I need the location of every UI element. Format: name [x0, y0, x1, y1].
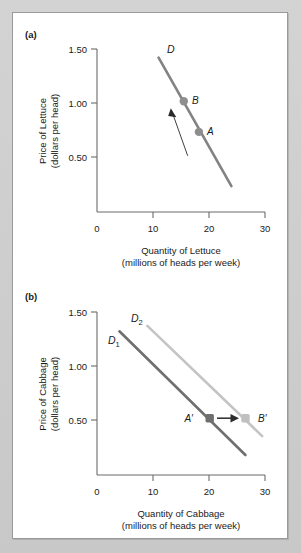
panel-a-ylabel-100: 1.00: [69, 98, 88, 109]
panel-b-y-axis-title-line2: (dollars per head): [49, 357, 60, 431]
data-point-B-prime: [241, 414, 249, 422]
shift-arrow-b: [217, 414, 239, 423]
point-label-A: A: [206, 126, 214, 137]
panel-b-xlabel-30: 30: [260, 486, 271, 497]
panel-b-plot: (b) 1.50 1.00 0.50 0 10: [13, 278, 289, 540]
data-point-A: [195, 128, 203, 136]
curve-label-D1-sub: 1: [116, 340, 120, 349]
panel-a-y-axis-title-line2: (dollars per head): [49, 94, 60, 168]
panel-b-x-axis-title-line2: (millions of heads per week): [122, 520, 240, 531]
panel-a-y-axis-title-line1: Price of Lettuce: [37, 98, 48, 164]
figure-card: (a) 1.50 1.00 0.50 0 10: [12, 12, 288, 539]
data-point-A-prime: [206, 414, 214, 422]
panel-a-ylabel-150: 1.50: [69, 44, 88, 55]
point-label-B-prime: B′: [258, 413, 268, 424]
panel-a-x-axis-title-line1: Quantity of Lettuce: [141, 245, 221, 256]
panel-b-ylabel-100: 1.00: [69, 361, 88, 372]
curve-label-D1: D1: [108, 334, 120, 349]
panel-a-xlabel-0: 0: [94, 223, 99, 234]
panel-b-y-axis-title-line1: Price of Cabbage: [37, 357, 48, 430]
panel-b-label: (b): [25, 291, 37, 302]
data-point-B: [180, 97, 188, 105]
movement-arrow-a: [168, 108, 188, 156]
panel-a: (a) 1.50 1.00 0.50 0 10: [13, 13, 289, 278]
panel-a-xlabel-20: 20: [204, 223, 215, 234]
panel-b-xlabel-0: 0: [94, 486, 99, 497]
panel-a-label: (a): [25, 29, 37, 40]
panel-b: (b) 1.50 1.00 0.50 0 10: [13, 278, 289, 540]
demand-curve-D1: [119, 331, 245, 455]
curve-label-D: D: [167, 43, 175, 55]
panel-b-ylabel-050: 0.50: [69, 415, 88, 426]
panel-a-xlabel-30: 30: [260, 223, 271, 234]
panel-b-ylabel-150: 1.50: [69, 307, 88, 318]
point-label-A-prime: A′: [183, 413, 194, 424]
curve-label-D2: D2: [131, 312, 143, 327]
panel-b-x-axis-title-line1: Quantity of Cabbage: [137, 508, 224, 519]
demand-curve-D: [159, 58, 232, 187]
panel-a-ylabel-050: 0.50: [69, 152, 88, 163]
panel-a-xlabel-10: 10: [148, 223, 159, 234]
curve-label-D2-sub: 2: [139, 318, 143, 327]
figure-root: (a) 1.50 1.00 0.50 0 10: [0, 0, 301, 553]
panel-b-xlabel-10: 10: [148, 486, 159, 497]
panel-a-plot: (a) 1.50 1.00 0.50 0 10: [13, 13, 289, 278]
panel-b-xlabel-20: 20: [204, 486, 215, 497]
point-label-B: B: [192, 95, 199, 106]
panel-a-x-axis-title-line2: (millions of heads per week): [122, 257, 240, 268]
